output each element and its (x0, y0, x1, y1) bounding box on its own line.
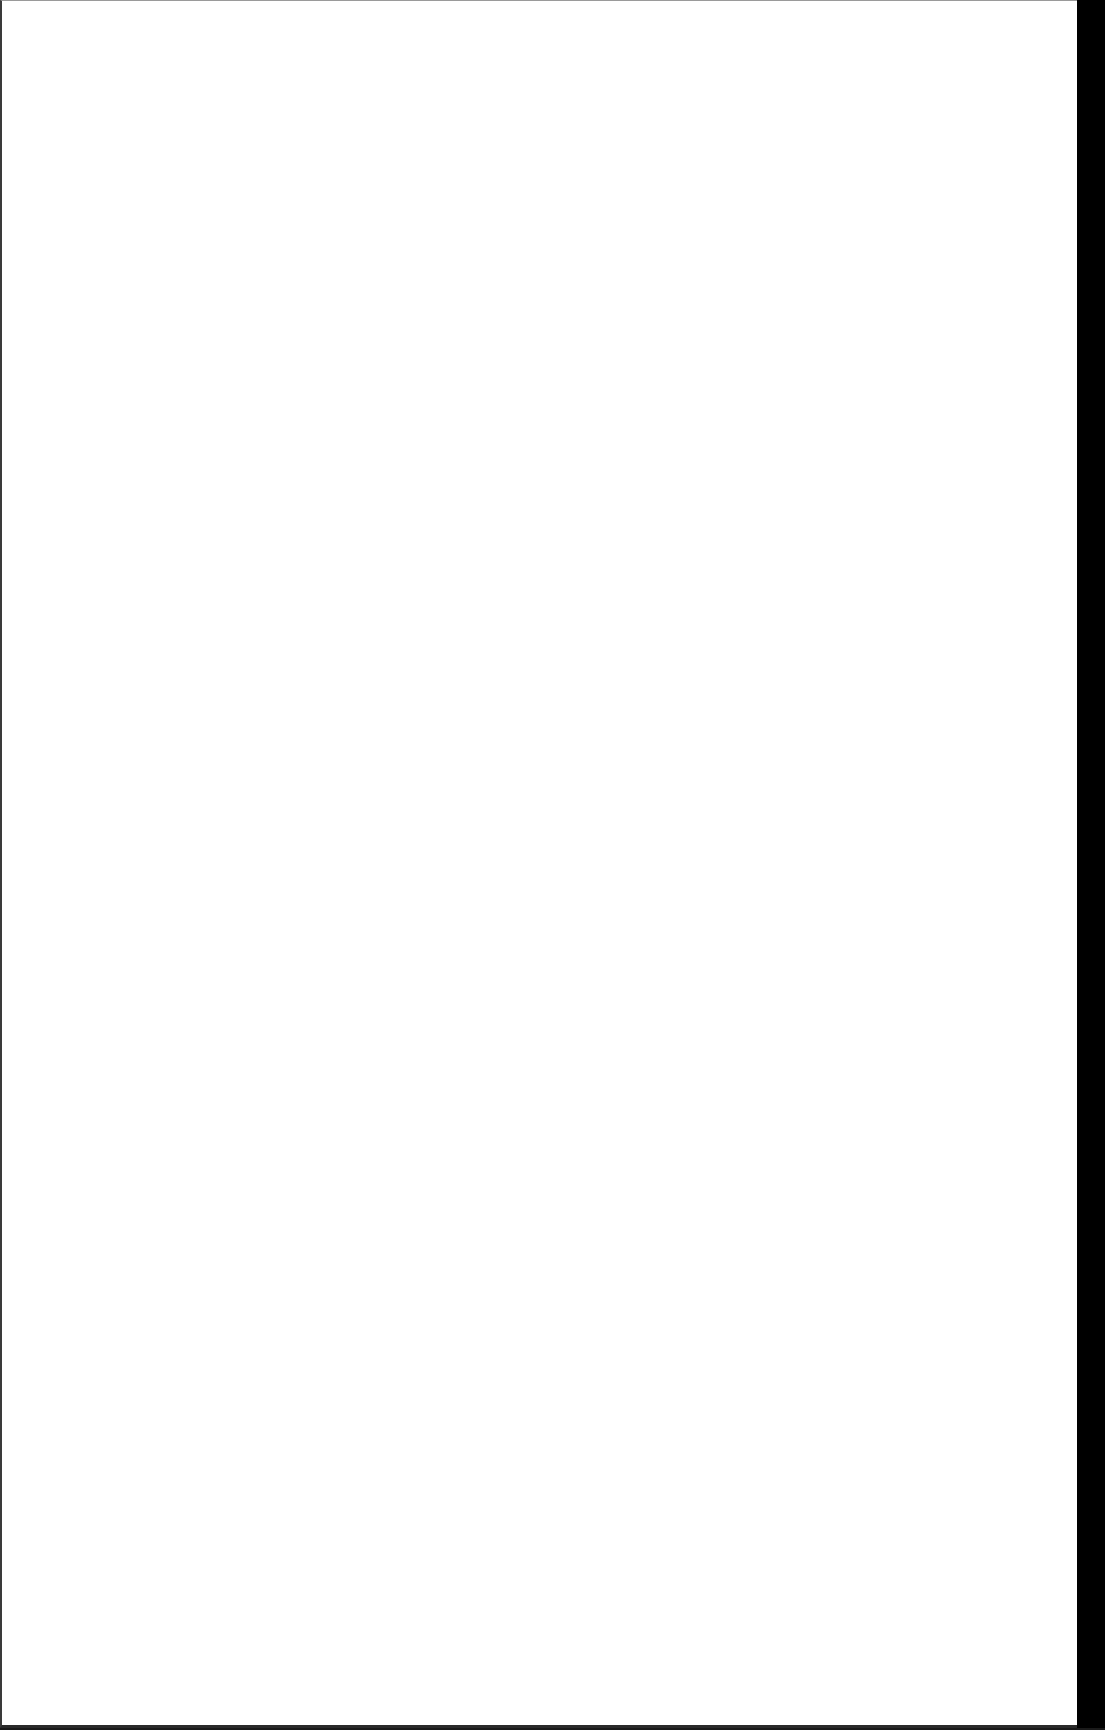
blank-page (0, 0, 1077, 1728)
scan-canvas (0, 0, 1105, 1730)
scan-edge-right (1077, 0, 1105, 1730)
